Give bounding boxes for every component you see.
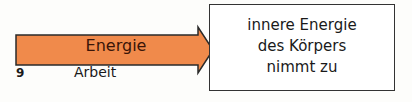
result-line-1: innere Energie xyxy=(210,15,394,36)
figure-number: 9 xyxy=(16,66,24,80)
result-text: innere Energie des Körpers nimmt zu xyxy=(210,15,394,78)
arrow-label-energie: Energie xyxy=(66,36,166,55)
result-line-2: des Körpers xyxy=(210,36,394,57)
result-box: innere Energie des Körpers nimmt zu xyxy=(209,4,395,91)
arrow-sublabel-arbeit: Arbeit xyxy=(74,64,116,80)
result-line-3: nimmt zu xyxy=(210,57,394,78)
